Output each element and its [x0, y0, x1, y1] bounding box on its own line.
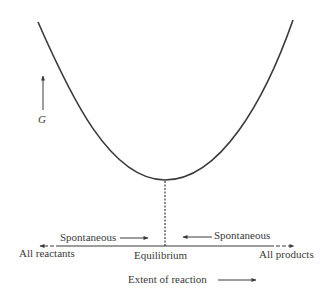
all-reactants-label: All reactants	[19, 247, 75, 259]
gibbs-curve	[38, 20, 293, 180]
diagram-canvas: G Spontaneous Spontaneous All reactants …	[0, 0, 336, 297]
spontaneous-left-label: Spontaneous	[60, 231, 116, 243]
g-axis-label: G	[38, 113, 46, 125]
all-products-label: All products	[259, 248, 314, 260]
extent-of-reaction-label: Extent of reaction	[128, 273, 207, 285]
equilibrium-label: Equilibrium	[134, 249, 187, 261]
spontaneous-right-label: Spontaneous	[214, 229, 270, 241]
